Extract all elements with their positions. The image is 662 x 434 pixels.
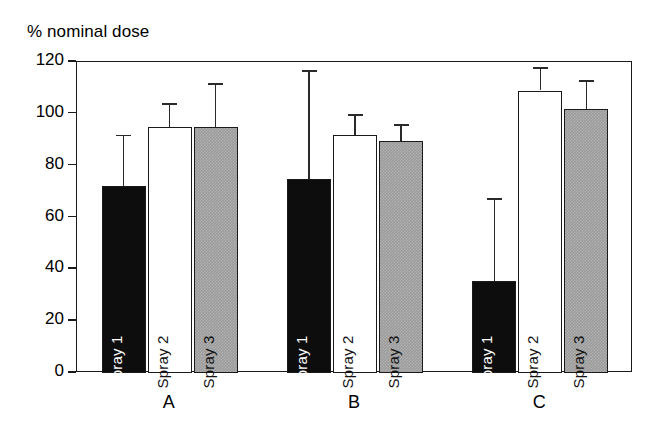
- y-axis-tick-label: 60: [45, 206, 64, 226]
- y-axis-tick-mark: [68, 60, 76, 62]
- plot-area: Spray 1Spray 2Spray 3Spray 1Spray 2Spray…: [76, 61, 632, 372]
- y-axis-tick-mark: [68, 164, 76, 166]
- y-axis-tick-label: 100: [36, 102, 64, 122]
- bar-label: Spray 3: [201, 335, 216, 388]
- y-axis-tick-mark: [68, 112, 76, 114]
- error-bar-stem: [400, 124, 402, 141]
- y-axis-tick-label: 0: [55, 361, 64, 381]
- bar-label: Spray 3: [386, 335, 401, 388]
- bar-c-spray-1: Spray 1: [472, 281, 516, 373]
- bar-label: Spray 1: [109, 335, 124, 388]
- y-axis-tick-label: 80: [45, 154, 64, 174]
- bar-b-spray-3: Spray 3: [379, 141, 423, 373]
- bar-label: Spray 1: [294, 335, 309, 388]
- error-bar-cap: [394, 124, 409, 126]
- error-bar-stem: [215, 83, 217, 127]
- error-bar-stem: [586, 80, 588, 109]
- bar-b-spray-1: Spray 1: [287, 179, 331, 373]
- x-axis-group-label-a: A: [163, 392, 175, 413]
- error-bar-stem: [169, 103, 171, 126]
- bar-a-spray-2: Spray 2: [148, 127, 192, 373]
- bar-label: Spray 3: [571, 335, 586, 388]
- y-axis-tick-mark: [68, 371, 76, 373]
- bar-c-spray-3: Spray 3: [564, 109, 608, 373]
- y-axis-title: % nominal dose: [27, 22, 149, 42]
- y-axis-tick-mark: [68, 216, 76, 218]
- x-axis-group-label-b: B: [348, 392, 360, 413]
- bar-label: Spray 2: [155, 335, 170, 388]
- y-axis-tick-mark: [68, 319, 76, 321]
- error-bar-cap: [533, 67, 548, 69]
- error-bar-stem: [540, 67, 542, 90]
- error-bar-cap: [487, 198, 502, 200]
- y-axis-tick-mark: [68, 267, 76, 269]
- y-axis-tick-label: 120: [36, 50, 64, 70]
- y-axis-tick-label: 20: [45, 309, 64, 329]
- bar-chart: % nominal dose 020406080100120 Spray 1Sp…: [0, 0, 662, 434]
- bar-c-spray-2: Spray 2: [518, 91, 562, 373]
- bar-label: Spray 2: [525, 335, 540, 388]
- error-bar-cap: [116, 135, 131, 137]
- error-bar-stem: [123, 135, 125, 187]
- error-bar-stem: [308, 70, 310, 179]
- error-bar-cap: [579, 80, 594, 82]
- bar-b-spray-2: Spray 2: [333, 135, 377, 373]
- bar-label: Spray 2: [340, 335, 355, 388]
- bar-label: Spray 1: [479, 335, 494, 388]
- y-axis-tick-label: 40: [45, 257, 64, 277]
- error-bar-cap: [348, 114, 363, 116]
- error-bar-stem: [494, 198, 496, 281]
- error-bar-cap: [302, 70, 317, 72]
- error-bar-cap: [162, 103, 177, 105]
- x-axis-group-label-c: C: [533, 392, 546, 413]
- bar-a-spray-1: Spray 1: [102, 186, 146, 373]
- error-bar-cap: [208, 83, 223, 85]
- bar-a-spray-3: Spray 3: [194, 127, 238, 373]
- error-bar-stem: [354, 114, 356, 135]
